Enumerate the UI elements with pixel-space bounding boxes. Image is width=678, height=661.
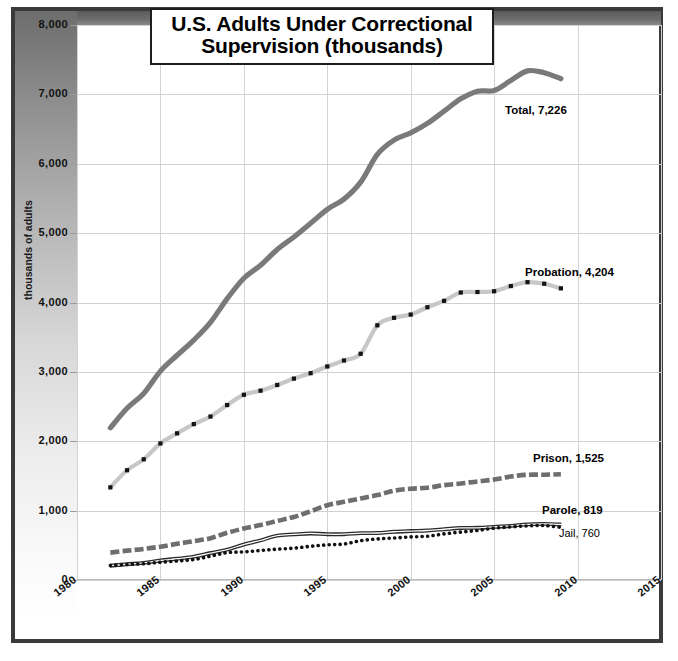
y-axis-tick-label: 2,000	[14, 434, 68, 446]
chart-title: U.S. Adults Under Correctional Supervisi…	[150, 8, 494, 65]
y-axis-tick	[70, 25, 77, 26]
series-label-probation: Probation, 4,204	[525, 266, 614, 278]
series-probation	[108, 280, 563, 489]
y-axis-tick	[70, 441, 77, 442]
chart-title-line2: Supervision (thousands)	[158, 35, 486, 57]
series-label-total: Total, 7,226	[505, 104, 567, 116]
y-axis-tick	[70, 94, 77, 95]
series-label-jail: Jail, 760	[559, 527, 600, 539]
plot-area	[77, 25, 661, 580]
y-axis-tick-label: 4,000	[14, 296, 68, 308]
series-label-parole: Parole, 819	[542, 504, 603, 516]
series-lines	[77, 25, 661, 580]
series-label-prison: Prison, 1,525	[533, 452, 604, 464]
chart-title-line1: U.S. Adults Under Correctional	[158, 13, 486, 35]
y-axis-tick-label: 1,000	[14, 504, 68, 516]
y-axis-tick	[70, 511, 77, 512]
series-prison	[110, 474, 561, 552]
left-gradient-band	[15, 11, 77, 639]
y-axis-tick-label: 3,000	[14, 365, 68, 377]
y-axis-tick	[70, 164, 77, 165]
chart-screenshot: U.S. Adults Under Correctional Supervisi…	[0, 0, 678, 661]
y-axis-tick-label: 8,000	[14, 18, 68, 30]
y-axis-tick-label: 7,000	[14, 87, 68, 99]
y-axis-title: thousands of adults	[22, 200, 34, 300]
y-axis-tick	[70, 303, 77, 304]
y-axis-tick	[70, 233, 77, 234]
y-axis-tick-label: 5,000	[14, 226, 68, 238]
gridline-vertical	[661, 25, 662, 580]
y-axis-tick	[70, 372, 77, 373]
series-total	[110, 70, 561, 427]
y-axis-tick-label: 6,000	[14, 157, 68, 169]
